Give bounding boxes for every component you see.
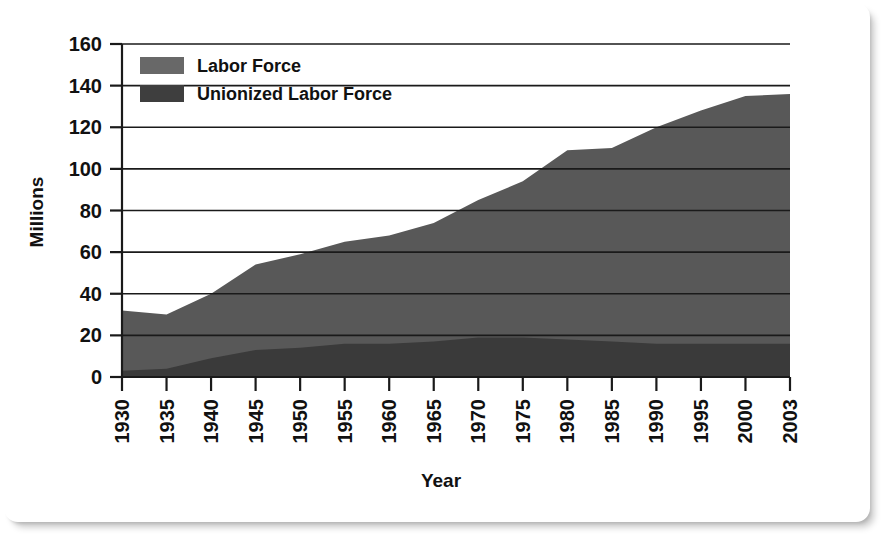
y-tick-label-0: 0: [91, 366, 102, 388]
legend-label-labor-force: Labor Force: [197, 56, 301, 76]
x-tick-label-1965: 1965: [423, 399, 445, 444]
x-tick-label-1990: 1990: [645, 399, 667, 444]
y-tick-label-160: 160: [69, 33, 102, 55]
y-tick-label-40: 40: [80, 283, 102, 305]
area-labor-force: [122, 94, 790, 377]
legend-swatch-labor-force: [140, 57, 184, 74]
x-tick-label-1930: 1930: [111, 399, 133, 444]
x-tick-labels-group: 1930193519401945195019551960196519701975…: [111, 399, 801, 444]
x-tick-label-1975: 1975: [512, 399, 534, 444]
x-tick-label-1950: 1950: [289, 399, 311, 444]
screenshot-root: 020406080100120140160 193019351940194519…: [0, 0, 887, 538]
x-tick-label-1945: 1945: [245, 399, 267, 444]
y-tick-labels-group: 020406080100120140160: [69, 33, 102, 388]
x-tick-label-1995: 1995: [690, 399, 712, 444]
x-tick-label-1985: 1985: [601, 399, 623, 444]
y-axis-group: [110, 44, 122, 377]
x-tick-label-1980: 1980: [556, 399, 578, 444]
x-tick-label-2000: 2000: [734, 399, 756, 444]
area-series-group: [122, 94, 790, 377]
y-tick-label-80: 80: [80, 200, 102, 222]
x-tick-label-2003: 2003: [779, 399, 801, 444]
x-tick-label-1940: 1940: [200, 399, 222, 444]
x-tick-label-1970: 1970: [467, 399, 489, 444]
x-axis-title: Year: [421, 470, 462, 491]
legend-swatch-unionized-labor-force: [140, 85, 184, 102]
x-tick-label-1955: 1955: [334, 399, 356, 444]
y-tick-label-60: 60: [80, 241, 102, 263]
chart-legend: Labor Force Unionized Labor Force: [140, 56, 392, 104]
y-tick-label-100: 100: [69, 158, 102, 180]
y-tick-label-20: 20: [80, 324, 102, 346]
labor-force-area-chart: 020406080100120140160 193019351940194519…: [0, 0, 887, 538]
y-tick-label-140: 140: [69, 75, 102, 97]
y-axis-title: Millions: [26, 177, 47, 248]
chart-svg: 020406080100120140160 193019351940194519…: [0, 0, 887, 538]
x-tick-label-1935: 1935: [156, 399, 178, 444]
y-tick-label-120: 120: [69, 116, 102, 138]
legend-label-unionized-labor-force: Unionized Labor Force: [197, 84, 392, 104]
x-tick-label-1960: 1960: [378, 399, 400, 444]
x-axis-group: [122, 377, 790, 391]
